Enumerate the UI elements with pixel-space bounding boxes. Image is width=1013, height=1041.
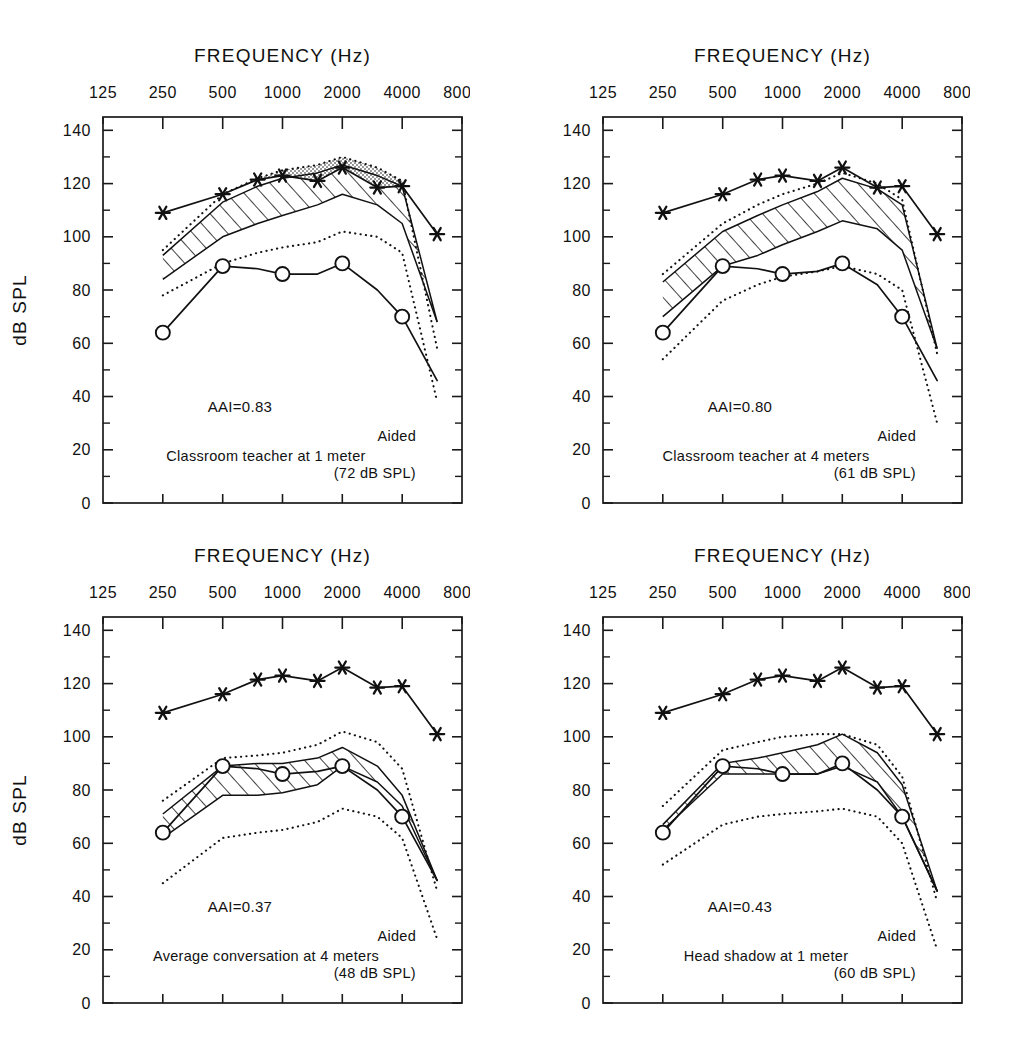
x-tick-label: 500 [709,84,737,101]
star-marker [656,707,670,719]
y-tick-label: 40 [572,388,591,405]
speech-band-hatch [663,178,937,348]
saturation-curve [163,668,437,735]
star-marker [751,674,765,686]
aided-label: Aided [377,928,416,944]
x-tick-label: 1000 [764,584,802,601]
y-tick-label: 80 [572,282,591,299]
y-tick-label: 100 [63,228,91,245]
aided-label: Aided [877,428,916,444]
x-tick-label: 500 [209,584,237,601]
star-marker [930,228,944,240]
star-marker [716,188,730,200]
x-axis-title: FREQUENCY (Hz) [194,545,371,566]
y-tick-label: 80 [72,782,91,799]
condition-label: Head shadow at 1 meter [684,948,849,964]
x-tick-label: 125 [89,584,117,601]
star-marker [156,707,170,719]
y-tick-label: 80 [72,282,91,299]
y-tick-label: 140 [63,122,91,139]
level-label: (72 dB SPL) [334,465,416,481]
y-tick-label: 120 [63,675,91,692]
x-tick-label: 2000 [824,584,862,601]
circle-marker [335,759,349,773]
x-tick-label: 4000 [883,584,921,601]
star-marker [811,175,825,187]
star-marker [656,207,670,219]
circle-marker [835,256,849,270]
level-label: (60 dB SPL) [834,965,916,981]
chart-panel-1: FREQUENCY (Hz)1252505001000200040008000d… [0,20,470,520]
y-axis-label: dB SPL [9,774,30,846]
x-tick-label: 8000 [443,584,470,601]
aai-value: AAI=0.80 [708,398,773,415]
y-tick-label: 60 [72,335,91,352]
y-tick-label: 140 [563,622,591,639]
star-marker [311,675,325,687]
circle-marker [776,267,790,281]
y-tick-label: 60 [72,835,91,852]
y-tick-label: 0 [582,995,591,1012]
circle-marker [276,767,290,781]
y-tick-label: 120 [563,175,591,192]
x-tick-label: 125 [589,84,617,101]
y-tick-label: 40 [72,388,91,405]
y-tick-label: 100 [563,728,591,745]
condition-label: Classroom teacher at 1 meter [166,448,365,464]
x-tick-label: 4000 [383,584,421,601]
star-marker [335,662,349,674]
x-tick-label: 4000 [883,84,921,101]
condition-label: Average conversation at 4 meters [153,948,379,964]
x-tick-label: 2000 [824,84,862,101]
x-axis-title: FREQUENCY (Hz) [694,45,871,66]
x-tick-label: 125 [589,584,617,601]
x-tick-label: 125 [89,84,117,101]
circle-marker [156,826,170,840]
panel-annotations: AAI=0.43AidedHead shadow at 1 meter(60 d… [684,898,916,981]
x-tick-label: 250 [649,584,677,601]
star-marker [895,680,909,692]
star-marker [370,681,384,693]
saturation-curve [663,668,937,735]
circle-marker [716,759,730,773]
y-tick-label: 20 [72,441,91,458]
y-tick-label: 60 [572,835,591,852]
star-marker [395,680,409,692]
upper-envelope-curve [163,731,437,891]
chart-panel-2: FREQUENCY (Hz)12525050010002000400080000… [500,20,970,520]
x-tick-label: 8000 [943,584,970,601]
x-tick-label: 500 [209,84,237,101]
circle-marker [776,767,790,781]
condition-label: Classroom teacher at 4 meters [663,448,870,464]
star-marker [811,675,825,687]
aided-threshold-curve [163,263,437,380]
y-tick-label: 120 [563,675,591,692]
y-tick-label: 40 [72,888,91,905]
x-tick-label: 4000 [383,84,421,101]
y-tick-label: 140 [563,122,591,139]
panel-annotations: AAI=0.37AidedAverage conversation at 4 m… [153,898,416,981]
level-label: (48 dB SPL) [334,965,416,981]
aided-label: Aided [377,428,416,444]
y-tick-label: 0 [82,995,91,1012]
circle-marker [895,310,909,324]
y-tick-label: 20 [572,441,591,458]
circle-marker [216,759,230,773]
circle-marker [276,267,290,281]
y-tick-label: 20 [72,941,91,958]
aai-value: AAI=0.37 [208,898,273,915]
star-marker [835,162,849,174]
star-marker [430,728,444,740]
star-marker [835,662,849,674]
x-tick-label: 1000 [264,84,302,101]
panel-annotations: AAI=0.80AidedClassroom teacher at 4 mete… [663,398,916,481]
figure-root: FREQUENCY (Hz)1252505001000200040008000d… [0,0,1013,1041]
x-tick-label: 1000 [764,84,802,101]
plot-area [156,662,444,940]
aai-value: AAI=0.43 [708,898,773,915]
plot-area [656,662,944,950]
circle-marker [656,826,670,840]
panel-annotations: AAI=0.83AidedClassroom teacher at 1 mete… [166,398,416,481]
star-marker [930,728,944,740]
star-marker [716,688,730,700]
